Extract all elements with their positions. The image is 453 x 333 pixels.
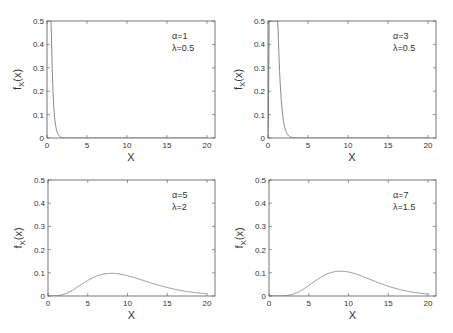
y-tick-label: 0.1 [255, 269, 267, 278]
subplot-alpha5-lambda2: 0510152000.10.20.30.40.5XfX(x)α=5λ=2 [12, 176, 215, 321]
x-tick-label: 15 [163, 299, 172, 308]
alpha-annotation: α=5 [172, 190, 187, 200]
x-tick-label: 0 [267, 299, 272, 308]
y-tick-label: 0.5 [255, 176, 267, 185]
y-axis-label: fX(x) [232, 69, 247, 90]
x-tick-label: 10 [344, 299, 353, 308]
axes-box [47, 21, 215, 138]
y-tick-label: 0.3 [254, 64, 266, 73]
subplot-alpha1-lambda0.5: 0510152000.10.20.30.40.5XfX(x)α=1λ=0.5 [11, 17, 215, 163]
axes-box [269, 180, 436, 296]
subplot-alpha3-lambda0.5: 0510152000.10.20.30.40.5XfX(x)α=3λ=0.5 [232, 17, 436, 163]
y-tick-label: 0.2 [34, 246, 46, 255]
pdf-curve [48, 273, 207, 296]
x-tick-label: 10 [123, 141, 132, 150]
x-axis-label: X [127, 151, 135, 163]
lambda-annotation: λ=2 [172, 202, 187, 212]
alpha-annotation: α=3 [393, 31, 408, 41]
x-tick-label: 5 [86, 299, 91, 308]
y-axis-label: fX(x) [12, 227, 27, 248]
x-tick-label: 5 [306, 141, 311, 150]
lambda-annotation: λ=1.5 [393, 202, 415, 212]
lambda-annotation: λ=0.5 [393, 43, 415, 53]
x-tick-label: 20 [203, 141, 212, 150]
x-tick-label: 5 [307, 299, 312, 308]
x-tick-label: 10 [123, 299, 132, 308]
y-tick-label: 0.1 [33, 111, 45, 120]
y-tick-label: 0 [261, 134, 266, 143]
y-tick-label: 0.4 [33, 40, 45, 49]
y-tick-label: 0.1 [254, 111, 266, 120]
subplot-alpha7-lambda1.5: 0510152000.10.20.30.40.5XfX(x)α=7λ=1.5 [233, 176, 436, 321]
y-tick-label: 0.4 [255, 199, 267, 208]
x-tick-label: 20 [203, 299, 212, 308]
y-tick-label: 0.1 [34, 269, 46, 278]
lambda-annotation: λ=0.5 [172, 43, 194, 53]
y-tick-label: 0.2 [33, 87, 45, 96]
x-tick-label: 10 [344, 141, 353, 150]
x-tick-label: 5 [85, 141, 90, 150]
x-axis-label: X [128, 309, 136, 321]
x-tick-label: 15 [384, 299, 393, 308]
x-tick-label: 0 [266, 141, 271, 150]
figure: 0510152000.10.20.30.40.5XfX(x)α=1λ=0.505… [0, 0, 453, 333]
y-tick-label: 0.5 [34, 176, 46, 185]
x-axis-label: X [348, 151, 356, 163]
y-axis-label: fX(x) [11, 69, 26, 90]
x-tick-label: 0 [46, 299, 51, 308]
x-tick-label: 15 [163, 141, 172, 150]
x-tick-label: 0 [45, 141, 50, 150]
y-tick-label: 0 [40, 134, 45, 143]
y-tick-label: 0.2 [254, 87, 266, 96]
y-tick-label: 0.3 [33, 64, 45, 73]
y-tick-label: 0.5 [254, 17, 266, 26]
y-tick-label: 0.5 [33, 17, 45, 26]
alpha-annotation: α=7 [393, 190, 408, 200]
y-tick-label: 0.3 [255, 222, 267, 231]
y-tick-label: 0 [41, 292, 46, 301]
axes-box [48, 180, 215, 296]
axes-box [268, 21, 436, 138]
y-axis-label: fX(x) [233, 227, 248, 248]
y-tick-label: 0.2 [255, 246, 267, 255]
pdf-curve [269, 271, 428, 296]
x-tick-label: 20 [424, 299, 433, 308]
y-tick-label: 0.4 [254, 40, 266, 49]
x-tick-label: 15 [384, 141, 393, 150]
y-tick-label: 0.3 [34, 222, 46, 231]
alpha-annotation: α=1 [172, 31, 187, 41]
x-axis-label: X [349, 309, 357, 321]
y-tick-label: 0 [262, 292, 267, 301]
y-tick-label: 0.4 [34, 199, 46, 208]
x-tick-label: 20 [424, 141, 433, 150]
